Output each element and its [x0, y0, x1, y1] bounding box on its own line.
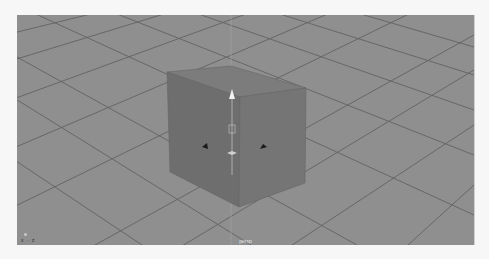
cube-object[interactable] — [167, 66, 306, 207]
axis-origin-icon — [24, 233, 27, 236]
3d-viewport[interactable]: x · z persp — [17, 15, 475, 245]
grid-plane — [17, 15, 474, 245]
camera-label: persp — [17, 238, 474, 244]
